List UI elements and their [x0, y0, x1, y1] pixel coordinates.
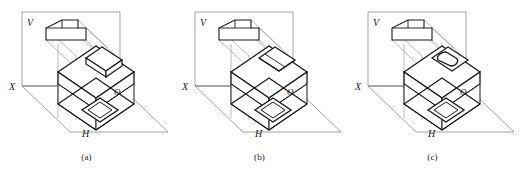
label-origin-b: O — [287, 87, 294, 97]
figure-root: V X O H (a) — [0, 0, 520, 175]
label-x-axis-a: X — [8, 81, 16, 92]
label-origin-a: O — [114, 87, 121, 97]
front-view-projection-b — [219, 20, 259, 40]
projection-panel-b: V X O H (b) — [173, 0, 346, 175]
projection-panel-a: V X O H (a) — [0, 0, 173, 175]
label-horizontal-plane-c: H — [427, 128, 436, 139]
projection-panel-c: V X O H (c) — [346, 0, 519, 175]
front-view-projection-c — [392, 20, 432, 40]
label-vertical-plane-c: V — [373, 17, 381, 28]
label-x-axis-c: X — [354, 81, 362, 92]
label-vertical-plane-a: V — [27, 17, 35, 28]
panel-a-drawing: V X O H — [0, 0, 173, 160]
panel-b-drawing: V X O H — [173, 0, 346, 160]
label-x-axis-b: X — [181, 81, 189, 92]
label-vertical-plane-b: V — [200, 17, 208, 28]
panel-c-drawing: V X O H — [346, 0, 519, 160]
label-horizontal-plane-a: H — [81, 128, 90, 139]
label-horizontal-plane-b: H — [254, 128, 263, 139]
panel-caption-b: (b) — [173, 152, 346, 162]
panel-caption-c: (c) — [346, 152, 519, 162]
front-view-projection-a — [46, 20, 86, 40]
label-origin-c: O — [460, 87, 467, 97]
panel-caption-a: (a) — [0, 152, 173, 162]
